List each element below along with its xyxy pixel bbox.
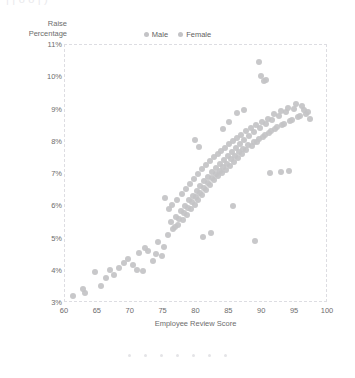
scatter-point[interactable] bbox=[291, 106, 297, 112]
x-axis-tick-label: 100 bbox=[307, 306, 347, 315]
scatter-point[interactable] bbox=[162, 195, 168, 201]
scatter-point[interactable] bbox=[285, 105, 291, 111]
scatter-point[interactable] bbox=[134, 267, 140, 273]
scatter-point[interactable] bbox=[176, 216, 182, 222]
legend-swatch-male-icon bbox=[144, 32, 149, 37]
pagination-dot[interactable] bbox=[144, 354, 147, 357]
scatter-point[interactable] bbox=[208, 230, 214, 236]
scatter-point[interactable] bbox=[103, 275, 109, 281]
scatter-point[interactable] bbox=[155, 239, 161, 245]
scatter-point[interactable] bbox=[98, 283, 104, 289]
pagination-dots[interactable] bbox=[0, 354, 355, 357]
y-axis-tick-label: 8% bbox=[2, 137, 62, 146]
scatter-point[interactable] bbox=[70, 293, 76, 299]
scatter-point[interactable] bbox=[220, 126, 226, 132]
scatter-point[interactable] bbox=[297, 113, 303, 119]
scatter-point[interactable] bbox=[116, 265, 122, 271]
scatter-point[interactable] bbox=[179, 191, 185, 197]
pagination-dot[interactable] bbox=[128, 354, 131, 357]
scatter-point[interactable] bbox=[268, 128, 274, 134]
scatter-point[interactable] bbox=[153, 251, 159, 257]
scatter-point[interactable] bbox=[197, 190, 203, 196]
scatter-point[interactable] bbox=[278, 169, 284, 175]
legend-item-male[interactable]: Male bbox=[144, 30, 168, 39]
scatter-point[interactable] bbox=[230, 203, 236, 209]
pagination-dot[interactable] bbox=[192, 354, 195, 357]
scatter-point[interactable] bbox=[165, 232, 171, 238]
scatter-point[interactable] bbox=[200, 234, 206, 240]
y-axis-tick-label: 7% bbox=[2, 169, 62, 178]
scatter-point[interactable] bbox=[92, 269, 98, 275]
y-axis-tick-label: 4% bbox=[2, 266, 62, 275]
legend-swatch-female-icon bbox=[178, 32, 183, 37]
scatter-point[interactable] bbox=[278, 108, 284, 114]
scatter-point[interactable] bbox=[150, 258, 156, 264]
scatter-point[interactable] bbox=[169, 202, 175, 208]
y-axis-tick-label: 9% bbox=[2, 105, 62, 114]
scatter-point[interactable] bbox=[142, 245, 148, 251]
scatter-point[interactable] bbox=[289, 117, 295, 123]
pagination-dot[interactable] bbox=[160, 354, 163, 357]
y-axis-tick-label: 11% bbox=[2, 40, 62, 49]
scatter-point[interactable] bbox=[159, 253, 165, 259]
scatter-point[interactable] bbox=[111, 272, 117, 278]
scatter-point[interactable] bbox=[234, 110, 240, 116]
scatter-point[interactable] bbox=[256, 59, 262, 65]
scatter-point[interactable] bbox=[121, 260, 127, 266]
pagination-dot[interactable] bbox=[224, 354, 227, 357]
pagination-dot[interactable] bbox=[176, 354, 179, 357]
scatter-point[interactable] bbox=[185, 205, 191, 211]
legend-label-male: Male bbox=[152, 30, 168, 39]
scatter-point[interactable] bbox=[241, 107, 247, 113]
scatter-plot-figure: Raise Percentage Male Female 3%4%5%6%7%8… bbox=[0, 0, 355, 378]
scatter-point[interactable] bbox=[307, 116, 313, 122]
scatter-point[interactable] bbox=[252, 238, 258, 244]
pagination-dot[interactable] bbox=[208, 354, 211, 357]
y-axis-tick-label: 10% bbox=[2, 72, 62, 81]
scatter-point[interactable] bbox=[161, 244, 167, 250]
scatter-point[interactable] bbox=[192, 137, 198, 143]
scatter-point[interactable] bbox=[305, 109, 311, 115]
scatter-point[interactable] bbox=[174, 197, 180, 203]
scatter-point[interactable] bbox=[256, 136, 262, 142]
scatter-point[interactable] bbox=[293, 101, 299, 107]
y-axis-title: Raise Percentage bbox=[0, 19, 67, 38]
plot-area bbox=[64, 44, 327, 302]
scatter-point[interactable] bbox=[267, 170, 273, 176]
scatter-point[interactable] bbox=[196, 144, 202, 150]
scatter-point[interactable] bbox=[140, 268, 146, 274]
scatter-point[interactable] bbox=[172, 224, 178, 230]
scatter-point[interactable] bbox=[265, 116, 271, 122]
y-axis-tick-label: 5% bbox=[2, 234, 62, 243]
scatter-point[interactable] bbox=[262, 132, 268, 138]
scatter-points-layer bbox=[65, 45, 326, 301]
scatter-point[interactable] bbox=[286, 168, 292, 174]
scatter-point[interactable] bbox=[226, 119, 232, 125]
legend-label-female: Female bbox=[186, 30, 211, 39]
x-axis-title: Employee Review Score bbox=[64, 319, 327, 328]
scatter-point[interactable] bbox=[136, 250, 142, 256]
scatter-point[interactable] bbox=[281, 121, 287, 127]
scatter-point[interactable] bbox=[263, 77, 269, 83]
scatter-point[interactable] bbox=[195, 171, 201, 177]
legend-item-female[interactable]: Female bbox=[178, 30, 211, 39]
scatter-point[interactable] bbox=[274, 124, 280, 130]
y-axis-tick-label: 6% bbox=[2, 201, 62, 210]
scatter-point[interactable] bbox=[205, 180, 211, 186]
